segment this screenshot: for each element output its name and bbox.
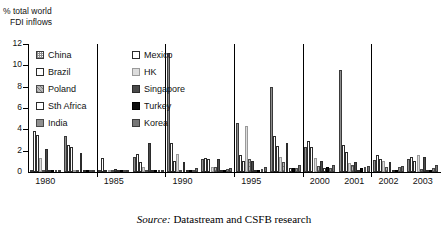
bar-korea-1995 [264,167,267,172]
legend-label: Sth Africa [48,101,87,111]
legend-label: China [48,50,72,60]
legend-label: Mexico [144,50,173,60]
legend-row: BrazilHK [36,63,241,80]
legend-label: Brazil [48,67,71,77]
legend-label: Poland [48,84,76,94]
legend-swatch-poland-icon [36,85,44,93]
y-tick-mark [23,129,28,130]
y-tick-label: 0 [2,166,22,176]
legend-swatch-hk-icon [132,68,140,76]
legend-row: ChinaMexico [36,46,241,63]
legend-row: IndiaKorea [36,114,241,131]
x-tick-label: 1990 [153,176,211,186]
bar-korea-1993 [229,168,232,172]
x-tick-label: 1985 [85,176,143,186]
legend-swatch-singapore-icon [132,85,140,93]
legend-swatch-brazil-icon [36,68,44,76]
bar-korea-1990 [195,168,198,172]
y-tick-label: 10 [2,59,22,69]
legend-item-hk[interactable]: HK [132,67,237,77]
bar-korea-1985 [126,170,129,172]
bar-korea-2000 [332,165,335,172]
legend-swatch-sthafrica-icon [36,102,44,110]
legend-swatch-india-icon [36,119,44,127]
y-tick-mark [23,65,28,66]
legend-item-sthafrica[interactable]: Sth Africa [36,101,132,111]
x-tick-label: 1995 [222,176,280,186]
group-separator [303,44,304,177]
legend-item-brazil[interactable]: Brazil [36,67,132,77]
y-tick-mark [23,44,28,45]
legend-row: PolandSingapore [36,80,241,97]
legend-item-india[interactable]: India [36,118,132,128]
legend-label: HK [144,67,157,77]
bar-singapore-1980 [45,149,48,172]
bar-korea-1980 [58,170,61,172]
chart-root: % total world FDI inflows 024681012 1980… [0,0,448,238]
legend-swatch-turkey-icon [132,102,140,110]
legend-label: Korea [144,118,168,128]
legend-item-korea[interactable]: Korea [132,118,237,128]
legend-label: Turkey [144,101,171,111]
legend-label: India [48,118,68,128]
chart-legend: ChinaMexicoBrazilHKPolandSingaporeSth Af… [36,46,241,131]
y-tick-label: 2 [2,145,22,155]
source-caption: Source: Datastream and CSFB research [0,213,448,225]
legend-item-turkey[interactable]: Turkey [132,101,237,111]
legend-row: Sth AfricaTurkey [36,97,241,114]
legend-swatch-mexico-icon [132,51,140,59]
group-separator [371,44,372,177]
y-tick-mark [23,108,28,109]
bar-singapore-1988 [148,143,151,172]
bar-brazil-1983 [70,147,73,172]
legend-item-china[interactable]: China [36,50,132,60]
x-tick-label: 2003 [394,176,448,186]
y-tick-mark [23,151,28,152]
bar-korea-1998 [298,165,301,172]
legend-item-poland[interactable]: Poland [36,84,132,94]
y-axis-labels: 024681012 [0,0,22,238]
bar-korea-2002 [401,166,404,172]
y-tick-label: 12 [2,38,22,48]
source-prefix: Source: [137,213,171,225]
y-tick-label: 6 [2,102,22,112]
bar-korea-1988 [161,170,164,172]
y-tick-label: 8 [2,81,22,91]
legend-label: Singapore [144,84,185,94]
bar-korea-2001 [367,166,370,172]
x-tick-label: 1980 [16,176,74,186]
legend-swatch-china-icon [36,51,44,59]
y-tick-mark [23,87,28,88]
source-text: Datastream and CSFB research [171,213,312,225]
bar-korea-1983 [92,170,95,172]
y-tick-label: 4 [2,123,22,133]
legend-item-mexico[interactable]: Mexico [132,50,237,60]
bar-korea-2003 [435,165,438,172]
legend-item-singapore[interactable]: Singapore [132,84,237,94]
legend-swatch-korea-icon [132,119,140,127]
